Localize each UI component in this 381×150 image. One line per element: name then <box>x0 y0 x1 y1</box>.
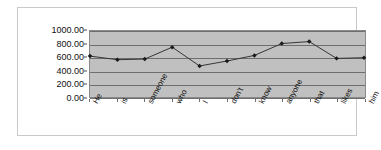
data-point-marker <box>252 53 257 57</box>
y-axis-tick-mark <box>84 30 87 31</box>
y-axis-tick-label: 600.00 <box>56 52 84 62</box>
x-axis-tick-mark <box>117 99 118 102</box>
line-series <box>90 31 365 97</box>
x-axis-tick-mark <box>310 99 311 102</box>
y-axis-tick-mark <box>84 98 87 99</box>
y-axis-tick-mark <box>84 84 87 85</box>
x-axis-tick-label: I <box>201 99 210 105</box>
data-point-marker <box>143 57 148 61</box>
y-axis-tick-label: 0.00 <box>66 93 84 103</box>
data-point-marker <box>334 56 339 60</box>
data-point-marker <box>362 55 367 59</box>
data-point-marker <box>280 41 285 45</box>
x-axis: HeissomeonewhoIdon'tknowanyonethatlikesh… <box>89 99 366 144</box>
plot-area <box>89 30 366 98</box>
data-point-marker <box>88 54 93 58</box>
y-axis: 0.00200.00400.00600.00800.001000.00 <box>18 30 87 98</box>
y-axis-tick-label: 400.00 <box>56 66 84 76</box>
data-point-marker <box>115 57 120 61</box>
y-axis-tick-label: 800.00 <box>56 39 84 49</box>
y-axis-tick-mark <box>84 43 87 44</box>
data-point-marker <box>307 39 312 43</box>
y-axis-tick-mark <box>84 57 87 58</box>
x-axis-tick-label: him <box>367 90 381 106</box>
x-axis-tick-mark <box>255 99 256 102</box>
data-point-marker <box>225 59 230 63</box>
x-axis-tick-mark <box>172 99 173 102</box>
chart-container: 0.00200.00400.00600.00800.001000.00 Heis… <box>17 7 357 136</box>
y-axis-tick-mark <box>84 70 87 71</box>
y-axis-tick-label: 1000.00 <box>51 25 84 35</box>
y-axis-tick-label: 200.00 <box>56 79 84 89</box>
